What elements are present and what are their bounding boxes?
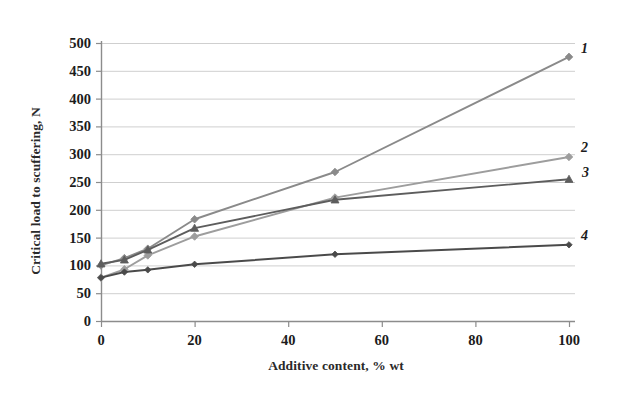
x-tick-label: 20 xyxy=(173,333,217,347)
x-tick-label: 40 xyxy=(266,333,310,347)
y-tick-label: 350 xyxy=(45,119,91,133)
x-tick-label: 60 xyxy=(360,333,404,347)
y-tick-label: 250 xyxy=(45,175,91,189)
data-point-marker xyxy=(191,261,197,267)
data-point-marker xyxy=(565,53,573,61)
x-tick-label: 80 xyxy=(453,333,497,347)
data-point-marker xyxy=(331,168,339,176)
x-tick-label: 100 xyxy=(547,333,591,347)
series-1 xyxy=(97,53,573,269)
chart-figure: Critical load to scuffering, N Additive … xyxy=(0,0,627,402)
data-point-marker xyxy=(191,233,199,241)
y-tick-label: 400 xyxy=(45,92,91,106)
x-tick-label: 0 xyxy=(79,333,123,347)
data-point-marker xyxy=(566,242,572,248)
y-tick-label: 100 xyxy=(45,258,91,272)
y-tick-label: 450 xyxy=(45,64,91,78)
series-annotation-3: 3 xyxy=(582,166,589,180)
series-annotation-2: 2 xyxy=(581,141,588,155)
data-point-marker xyxy=(145,267,151,273)
y-tick-label: 300 xyxy=(45,147,91,161)
y-tick-label: 500 xyxy=(45,36,91,50)
series-annotation-4: 4 xyxy=(581,229,588,243)
y-tick-label: 150 xyxy=(45,231,91,245)
data-point-marker xyxy=(98,274,104,280)
y-tick-label: 50 xyxy=(45,286,91,300)
series-annotation-1: 1 xyxy=(581,42,588,56)
y-tick-label: 200 xyxy=(45,203,91,217)
data-point-marker xyxy=(332,251,338,257)
series-line xyxy=(101,57,569,266)
series-line xyxy=(101,245,569,278)
y-tick-label: 0 xyxy=(45,314,91,328)
